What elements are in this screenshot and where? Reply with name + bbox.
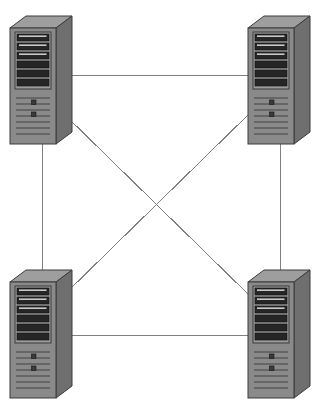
network-diagram: Server 1 Server 2 Server 3 Server 4 <box>0 0 323 406</box>
drive-bay-led <box>281 289 285 291</box>
drive-bay-highlight <box>19 44 43 46</box>
drive-bay-slot[interactable] <box>17 315 49 322</box>
drive-bay-led <box>281 307 285 309</box>
drive-bay-highlight <box>19 289 43 291</box>
status-led-icon[interactable] <box>32 100 37 105</box>
drive-bay-slot[interactable] <box>17 43 49 50</box>
drive-bay-led <box>43 289 47 291</box>
server-node-bottom-left[interactable]: Server 3 <box>8 268 80 400</box>
drive-bay-slot[interactable] <box>17 324 49 331</box>
server-chassis-icon <box>8 268 80 400</box>
drive-bay-slot[interactable] <box>255 43 287 50</box>
drive-bay-highlight <box>19 298 43 300</box>
drive-bay-slot[interactable] <box>255 52 287 59</box>
drive-bay-highlight <box>257 298 281 300</box>
drive-bay-highlight <box>19 53 43 55</box>
status-led-icon[interactable] <box>270 100 275 105</box>
drive-bay-highlight <box>19 35 43 37</box>
status-led-icon[interactable] <box>270 366 275 371</box>
drive-bay-highlight <box>257 289 281 291</box>
drive-bay-slot[interactable] <box>255 297 287 304</box>
status-led-icon[interactable] <box>270 112 275 117</box>
drive-bay-led <box>281 298 285 300</box>
drive-bay-led <box>281 44 285 46</box>
drive-bay-slot[interactable] <box>17 52 49 59</box>
drive-bay-highlight <box>19 307 43 309</box>
chassis-side-face <box>56 270 72 398</box>
status-led-icon[interactable] <box>32 354 37 359</box>
drive-bay-led <box>281 35 285 37</box>
drive-bay-slot[interactable] <box>17 70 49 77</box>
status-led-icon[interactable] <box>270 354 275 359</box>
drive-bay-highlight <box>257 35 281 37</box>
drive-bay-led <box>281 53 285 55</box>
drive-bay-slot[interactable] <box>255 288 287 295</box>
server-chassis-icon <box>8 14 80 146</box>
drive-bay-slot[interactable] <box>255 315 287 322</box>
chassis-side-face <box>294 16 310 144</box>
server-node-bottom-right[interactable]: Server 4 <box>246 268 318 400</box>
drive-bay-slot[interactable] <box>17 306 49 313</box>
drive-bay-led <box>43 307 47 309</box>
chassis-side-face <box>294 270 310 398</box>
drive-bay-highlight <box>257 307 281 309</box>
drive-bay-slot[interactable] <box>17 297 49 304</box>
drive-bay-slot[interactable] <box>17 34 49 41</box>
drive-bay-led <box>43 44 47 46</box>
drive-bay-highlight <box>257 44 281 46</box>
drive-bay-led <box>43 298 47 300</box>
drive-bay-slot[interactable] <box>255 34 287 41</box>
drive-bay-slot[interactable] <box>255 79 287 86</box>
drive-bay-led <box>43 35 47 37</box>
server-node-top-left[interactable]: Server 1 <box>8 14 80 146</box>
drive-bay-slot[interactable] <box>17 79 49 86</box>
drive-bay-slot[interactable] <box>255 306 287 313</box>
server-chassis-icon <box>246 268 318 400</box>
status-led-icon[interactable] <box>32 366 37 371</box>
chassis-side-face <box>56 16 72 144</box>
drive-bay-slot[interactable] <box>255 333 287 340</box>
drive-bay-slot[interactable] <box>17 61 49 68</box>
drive-bay-slot[interactable] <box>17 333 49 340</box>
server-chassis-icon <box>246 14 318 146</box>
drive-bay-led <box>43 53 47 55</box>
drive-bay-slot[interactable] <box>255 70 287 77</box>
drive-bay-slot[interactable] <box>255 324 287 331</box>
drive-bay-slot[interactable] <box>17 288 49 295</box>
server-node-top-right[interactable]: Server 2 <box>246 14 318 146</box>
drive-bay-highlight <box>257 53 281 55</box>
status-led-icon[interactable] <box>32 112 37 117</box>
drive-bay-slot[interactable] <box>255 61 287 68</box>
